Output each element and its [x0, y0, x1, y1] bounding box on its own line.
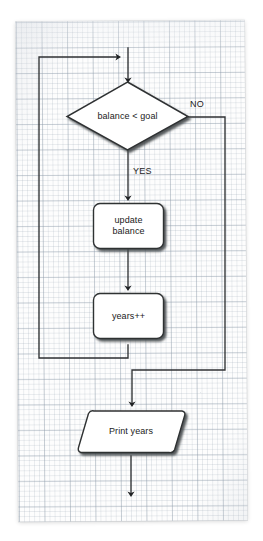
process-node-years-increment	[94, 294, 164, 339]
edge-no-to-output	[132, 117, 225, 404]
process-node-update-balance	[94, 204, 164, 249]
flowchart-drawing	[0, 0, 263, 541]
flowchart-canvas: balance < goal update balance years++ Pr…	[0, 0, 263, 541]
output-node-print-years	[78, 411, 185, 453]
decision-node-balance-less-than-goal	[67, 82, 188, 150]
